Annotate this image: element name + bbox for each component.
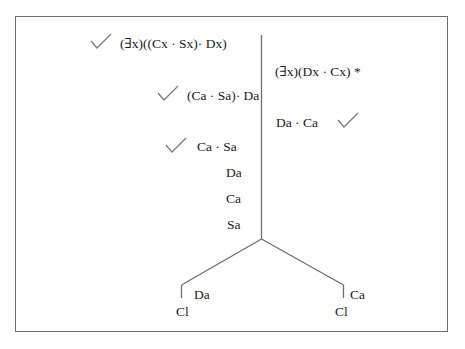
right-line-2: Da · Ca [276,116,318,130]
left-branch-closed: Cl [176,305,189,319]
right-branch-line [262,239,344,285]
line-2: (Ca · Sa)· Da [187,89,259,103]
line-5: Ca [226,192,241,206]
left-branch-line [182,239,262,285]
line-6: Sa [227,218,241,232]
line-3: Ca · Sa [197,140,237,154]
check-mark-icon [337,112,359,128]
negated-conclusion: (∃x)(Dx · Cx) * [275,65,361,79]
check-mark-icon [165,137,187,153]
right-branch-label: Ca [350,288,365,302]
check-mark-icon [90,33,112,49]
line-4: Da [226,166,242,180]
left-branch-label: Da [194,288,210,302]
premise-line-1: (∃x)((Cx · Sx)· Dx) [120,37,227,51]
check-mark-icon [157,85,179,101]
right-branch-closed: Cl [335,305,348,319]
